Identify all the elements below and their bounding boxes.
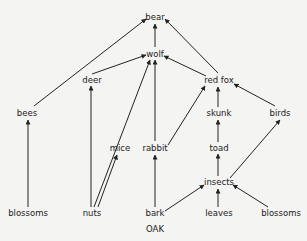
food-web-arrows <box>0 0 307 241</box>
arrow-birds-to-redfox <box>234 84 275 106</box>
node-mice: mice <box>110 144 131 153</box>
arrow-blossoms2-to-insects <box>233 185 268 207</box>
node-insects: insects <box>204 178 234 187</box>
arrow-nuts-to-mice <box>98 155 117 207</box>
node-blossoms-left: blossoms <box>8 209 48 218</box>
node-blossoms-right: blossoms <box>261 209 301 218</box>
node-wolf: wolf <box>146 50 164 59</box>
arrow-bark-to-insects <box>165 185 204 211</box>
oak-caption: OAK <box>146 225 164 234</box>
node-birds: birds <box>270 109 291 118</box>
node-rabbit: rabbit <box>142 144 167 153</box>
node-toad: toad <box>209 144 228 153</box>
arrow-nuts-to-wolf <box>94 60 150 207</box>
arrow-redfox-to-bear <box>165 19 218 73</box>
node-skunk: skunk <box>207 109 232 118</box>
food-web-diagram: bear wolf deer red fox bees skunk birds … <box>0 0 307 241</box>
node-bear: bear <box>145 13 164 22</box>
node-deer: deer <box>82 76 101 85</box>
node-red-fox: red fox <box>204 76 234 85</box>
arrow-insects-to-birds <box>230 120 280 178</box>
node-nuts: nuts <box>83 209 102 218</box>
node-bark: bark <box>145 209 164 218</box>
arrow-redfox-to-wolf <box>164 56 206 76</box>
arrow-deer-to-wolf <box>92 55 146 74</box>
node-leaves: leaves <box>205 209 233 218</box>
arrow-bees-to-bear <box>34 19 146 106</box>
node-bees: bees <box>17 109 37 118</box>
arrow-rabbit-to-redfox <box>168 86 205 145</box>
